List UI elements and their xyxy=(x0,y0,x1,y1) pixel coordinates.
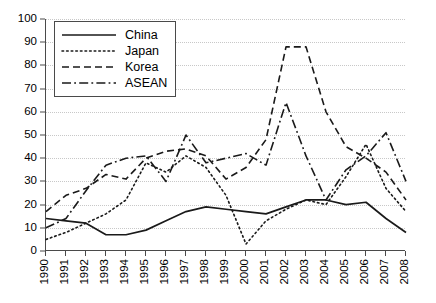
x-axis-tick-label: 1991 xyxy=(59,259,71,285)
y-axis-tick-label: 0 xyxy=(31,245,37,257)
x-axis-tick-mark xyxy=(145,251,146,256)
x-axis-tick-label: 1990 xyxy=(39,259,51,285)
x-axis-tick-mark xyxy=(225,251,226,256)
y-axis-tick-label: 100 xyxy=(18,13,37,25)
legend-label: Japan xyxy=(117,45,159,58)
x-axis-tick-label: 1995 xyxy=(139,259,151,285)
x-axis-tick-mark xyxy=(405,251,406,256)
x-axis-tick-label: 2000 xyxy=(239,259,251,285)
x-axis-tick-mark xyxy=(245,251,246,256)
y-axis-tick-label: 70 xyxy=(24,83,37,95)
x-axis-tick-mark xyxy=(85,251,86,256)
series-line-china xyxy=(46,200,406,235)
x-axis-tick-mark xyxy=(345,251,346,256)
legend-item-china: China xyxy=(61,27,167,43)
y-axis-tick-label: 30 xyxy=(24,176,37,188)
solid-line-icon xyxy=(61,29,117,41)
y-axis-tick-label: 20 xyxy=(24,199,37,211)
x-axis-tick-mark xyxy=(305,251,306,256)
x-axis-tick-label: 1999 xyxy=(219,259,231,285)
dotted-line-icon xyxy=(61,45,117,57)
legend-item-korea: Korea xyxy=(61,59,167,75)
dashed-line-icon xyxy=(61,61,117,73)
legend-item-asean: ASEAN xyxy=(61,75,167,91)
x-axis-tick-mark xyxy=(45,251,46,256)
x-axis-tick-mark xyxy=(285,251,286,256)
legend-label: Korea xyxy=(117,61,158,74)
legend-label: China xyxy=(117,29,158,42)
x-axis-tick-label: 1996 xyxy=(159,259,171,285)
x-axis-tick-label: 2001 xyxy=(259,259,271,285)
x-axis-tick-label: 2007 xyxy=(379,259,391,285)
y-axis-tick-label: 10 xyxy=(24,222,37,234)
x-axis-tick-label: 2003 xyxy=(299,259,311,285)
x-axis-tick-label: 2004 xyxy=(319,259,331,285)
x-axis-tick-label: 1993 xyxy=(99,259,111,285)
x-axis-tick-label: 1997 xyxy=(179,259,191,285)
y-axis-tick-label: 80 xyxy=(24,60,37,72)
x-axis-tick-mark xyxy=(125,251,126,256)
legend-item-japan: Japan xyxy=(61,43,167,59)
x-axis-tick-mark xyxy=(185,251,186,256)
y-axis: 0102030405060708090100 xyxy=(0,0,45,251)
x-axis-tick-label: 2002 xyxy=(279,259,291,285)
x-axis-tick-mark xyxy=(265,251,266,256)
x-axis-tick-label: 2008 xyxy=(399,259,411,285)
x-axis-tick-label: 1994 xyxy=(119,259,131,285)
chart-legend: ChinaJapanKoreaASEAN xyxy=(54,21,176,97)
x-axis-tick-mark xyxy=(165,251,166,256)
x-axis-tick-mark xyxy=(65,251,66,256)
x-axis-tick-mark xyxy=(205,251,206,256)
x-axis-tick-mark xyxy=(365,251,366,256)
y-axis-tick-label: 40 xyxy=(24,152,37,164)
x-axis-tick-mark xyxy=(385,251,386,256)
x-axis-tick-label: 1992 xyxy=(79,259,91,285)
series-line-japan xyxy=(46,144,406,244)
line-chart: 0102030405060708090100 19901991199219931… xyxy=(0,0,436,303)
dashdot-line-icon xyxy=(61,77,117,89)
x-axis-tick-label: 2005 xyxy=(339,259,351,285)
legend-label: ASEAN xyxy=(117,77,167,90)
x-axis-tick-mark xyxy=(325,251,326,256)
x-axis-tick-mark xyxy=(105,251,106,256)
x-axis: 1990199119921993199419951996199719981999… xyxy=(45,251,405,303)
x-axis-tick-label: 1998 xyxy=(199,259,211,285)
y-axis-tick-label: 50 xyxy=(24,129,37,141)
y-axis-tick-label: 90 xyxy=(24,36,37,48)
y-axis-tick-label: 60 xyxy=(24,106,37,118)
x-axis-tick-label: 2006 xyxy=(359,259,371,285)
